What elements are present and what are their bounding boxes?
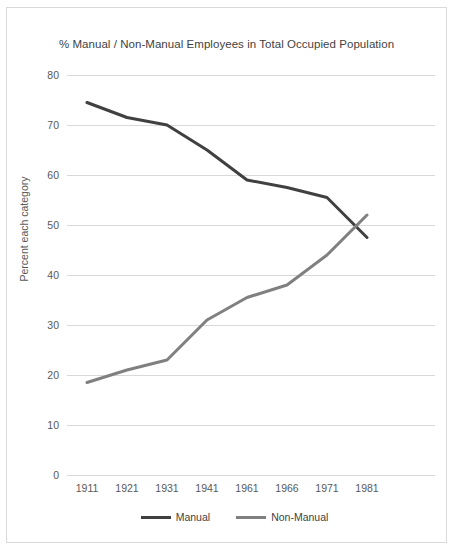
- legend-item-manual[interactable]: Manual: [141, 511, 210, 523]
- chart-title: % Manual / Non-Manual Employees in Total…: [7, 38, 446, 50]
- legend-item-label: Non-Manual: [271, 511, 328, 523]
- legend-item-non-manual[interactable]: Non-Manual: [236, 511, 328, 523]
- x-axis-tick-labels: 19111921193119411961196619711981: [67, 482, 435, 500]
- series-line-non-manual: [87, 215, 367, 383]
- series-line-manual: [87, 103, 367, 238]
- y-axis-tick-label: 10: [33, 419, 59, 431]
- x-axis-tick-label: 1981: [337, 482, 397, 494]
- y-axis-tick-label: 60: [33, 169, 59, 181]
- legend-line-swatch: [236, 516, 266, 519]
- plot-area: [67, 75, 435, 475]
- series-lines: [67, 75, 435, 475]
- y-axis-tick-label: 70: [33, 119, 59, 131]
- y-axis-tick-label: 0: [33, 469, 59, 481]
- y-axis-tick-label: 30: [33, 319, 59, 331]
- y-axis-tick-label: 50: [33, 219, 59, 231]
- legend-item-label: Manual: [176, 511, 210, 523]
- chart-legend: ManualNon-Manual: [7, 511, 455, 523]
- y-axis-tick-labels: 80706050403020100: [29, 75, 59, 475]
- y-axis-tick-label: 80: [33, 69, 59, 81]
- y-axis-tick-label: 40: [33, 269, 59, 281]
- gridline: [67, 475, 435, 476]
- y-axis-tick-label: 20: [33, 369, 59, 381]
- legend-line-swatch: [141, 516, 171, 519]
- chart-container: % Manual / Non-Manual Employees in Total…: [6, 7, 447, 543]
